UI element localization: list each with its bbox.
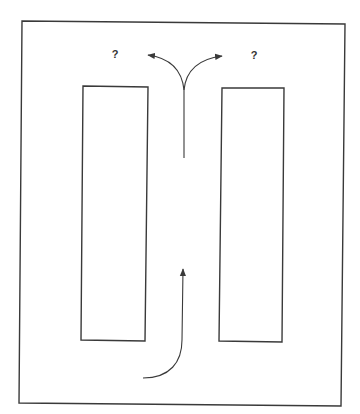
entry-arrow	[143, 269, 183, 378]
fork-right-arrow	[184, 56, 222, 90]
maze-diagram: ? ?	[0, 0, 360, 414]
left-question-mark: ?	[112, 49, 119, 60]
right-question-mark: ?	[251, 50, 258, 61]
fork-left-arrow	[148, 55, 184, 90]
left-block	[81, 86, 148, 341]
right-block	[219, 88, 284, 342]
